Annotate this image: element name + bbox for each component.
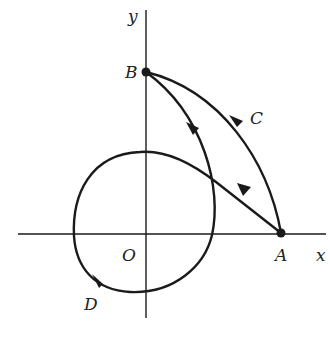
curve-d <box>74 72 281 292</box>
arrow-icon-d <box>92 274 103 288</box>
label-a: A <box>273 245 287 265</box>
label-b: B <box>124 62 138 82</box>
label-c: C <box>250 108 263 128</box>
arrow-icon-a <box>237 183 251 196</box>
label-x: x <box>316 245 326 265</box>
curve-c <box>146 72 281 233</box>
label-d: D <box>83 294 98 314</box>
label-o: O <box>122 245 136 265</box>
label-y: y <box>127 6 138 26</box>
point-b <box>142 68 151 77</box>
path-diagram: y B C O A x D <box>0 0 330 340</box>
point-a <box>277 229 286 238</box>
